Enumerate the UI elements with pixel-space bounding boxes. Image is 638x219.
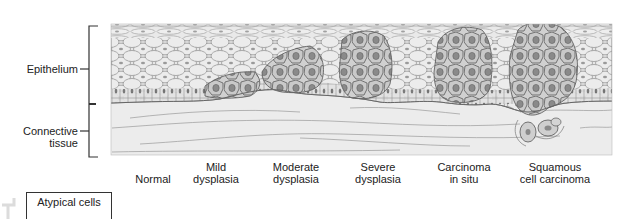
dysplasia-progression-diagram: Epithelium Connective tissue Normal Mild…	[0, 0, 638, 219]
connective-tissue-label-line2: tissue	[49, 137, 78, 149]
epithelium-label: Epithelium	[27, 63, 78, 75]
severe-dysplasia-atypia	[340, 31, 393, 99]
tissue-bracket	[80, 26, 98, 157]
stage-label-moderate-dysplasia: Moderate dysplasia	[264, 161, 328, 185]
connective-tissue-label-line1: Connective	[23, 125, 78, 137]
stage-label-normal: Normal	[126, 173, 180, 185]
background-mark	[2, 198, 14, 219]
stage-label-severe-dysplasia: Severe dysplasia	[346, 161, 410, 185]
stage-label-squamous-cell-carcinoma: Squamous cell carcinoma	[510, 161, 600, 185]
legend-box: Atypical cells	[26, 192, 112, 219]
legend-title: Atypical cells	[27, 196, 111, 208]
stage-label-carcinoma-in-situ: Carcinoma in situ	[432, 161, 496, 185]
tissue-illustration	[0, 0, 638, 219]
tissue-block	[111, 22, 612, 155]
stage-label-mild-dysplasia: Mild dysplasia	[186, 161, 246, 185]
carcinoma-in-situ-atypia	[434, 27, 492, 102]
